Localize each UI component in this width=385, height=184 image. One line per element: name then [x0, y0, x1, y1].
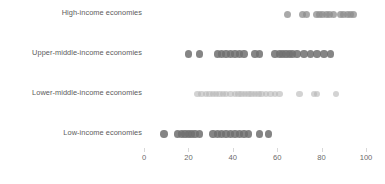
data-point	[185, 50, 192, 57]
x-axis-tick-label: 40	[229, 153, 237, 162]
chart-row-high-income: High-income economies	[0, 8, 385, 46]
dot-band-high-income	[0, 8, 385, 28]
dot-plot-chart: High-income economies Upper-middle-incom…	[0, 0, 385, 184]
data-point	[303, 11, 310, 18]
data-point	[333, 91, 340, 98]
data-point	[284, 11, 291, 18]
dot-band-upper-middle-income	[0, 48, 385, 68]
data-point	[296, 91, 303, 98]
x-axis-tick-mark	[188, 148, 189, 152]
data-point	[196, 130, 203, 137]
chart-row-lower-middle-income: Lower-middle-income economies	[0, 88, 385, 126]
x-axis-tick-label: 20	[184, 153, 192, 162]
data-point	[327, 50, 334, 57]
x-axis-tick-mark	[144, 148, 145, 152]
data-point	[256, 50, 263, 57]
data-point	[314, 91, 321, 98]
x-axis-tick-mark	[277, 148, 278, 152]
data-point	[240, 50, 247, 57]
x-axis-tick-label: 100	[360, 153, 373, 162]
data-point	[160, 130, 167, 137]
x-axis-tick-mark	[233, 148, 234, 152]
dot-band-lower-middle-income	[0, 88, 385, 108]
data-point	[265, 130, 272, 137]
data-point	[350, 11, 357, 18]
data-point	[256, 130, 263, 137]
x-axis: 020406080100	[0, 148, 385, 184]
x-axis-tick-mark	[366, 148, 367, 152]
x-axis-tick-label: 0	[142, 153, 146, 162]
data-point	[276, 91, 283, 98]
x-axis-tick-label: 80	[317, 153, 325, 162]
data-point	[196, 50, 203, 57]
x-axis-tick-label: 60	[273, 153, 281, 162]
chart-row-upper-middle-income: Upper-middle-income economies	[0, 48, 385, 86]
data-point	[245, 130, 252, 137]
x-axis-tick-mark	[322, 148, 323, 152]
dot-band-low-income	[0, 128, 385, 148]
